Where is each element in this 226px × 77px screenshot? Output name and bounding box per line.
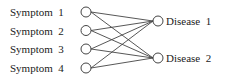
node-circle — [81, 26, 91, 36]
symptom-node-4: Symptom 4 — [10, 62, 91, 74]
node-label: Symptom 4 — [10, 62, 64, 74]
node-label: Disease 1 — [166, 15, 211, 27]
symptom-node-1: Symptom 1 — [10, 6, 91, 18]
node-label: Symptom 2 — [10, 25, 64, 37]
disease-node-1: Disease 1 — [153, 15, 211, 27]
node-circle — [81, 63, 91, 73]
edge-s4-d2 — [91, 58, 153, 68]
symptom-nodes-group: Symptom 1Symptom 2Symptom 3Symptom 4 — [10, 6, 91, 74]
node-circle — [81, 44, 91, 54]
node-label: Symptom 1 — [10, 6, 64, 18]
symptom-node-3: Symptom 3 — [10, 43, 91, 55]
node-circle — [153, 53, 163, 63]
disease-nodes-group: Disease 1Disease 2 — [153, 15, 211, 64]
node-circle — [153, 16, 163, 26]
symptom-disease-graph: Symptom 1Symptom 2Symptom 3Symptom 4 Dis… — [0, 0, 226, 77]
edge-s1-d1 — [91, 12, 153, 21]
edges-group — [91, 12, 153, 68]
symptom-node-2: Symptom 2 — [10, 25, 91, 37]
disease-node-2: Disease 2 — [153, 52, 211, 64]
node-label: Disease 2 — [166, 52, 211, 64]
node-label: Symptom 3 — [10, 43, 64, 55]
node-circle — [81, 7, 91, 17]
edge-s2-d1 — [91, 21, 153, 31]
